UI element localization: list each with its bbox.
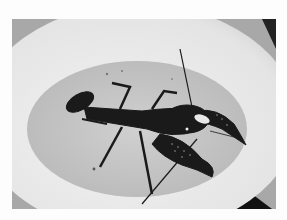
photo: [12, 19, 276, 209]
crayfish-photo: [12, 19, 276, 209]
water: [27, 61, 247, 197]
